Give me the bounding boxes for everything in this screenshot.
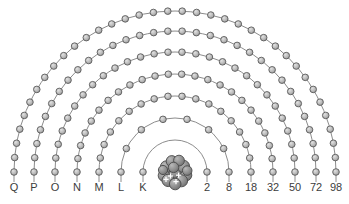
electron xyxy=(116,118,123,125)
electron xyxy=(330,140,337,147)
electron xyxy=(248,27,255,34)
electron xyxy=(110,42,117,49)
electron xyxy=(42,113,49,120)
electron xyxy=(138,126,145,133)
electron xyxy=(115,89,122,96)
electron xyxy=(107,129,114,136)
electron xyxy=(313,169,320,176)
electron xyxy=(56,88,63,95)
electron xyxy=(269,155,276,162)
electron xyxy=(306,126,313,133)
electron xyxy=(97,155,104,162)
electron xyxy=(205,126,212,133)
electron xyxy=(31,169,38,176)
electron xyxy=(255,118,262,125)
electron xyxy=(270,169,277,176)
electron xyxy=(136,12,143,19)
electron xyxy=(108,21,115,28)
electron xyxy=(310,140,317,147)
electron xyxy=(179,49,186,56)
electron xyxy=(288,141,295,148)
electron xyxy=(333,169,340,176)
electron xyxy=(206,54,213,61)
electron xyxy=(150,29,157,36)
electron xyxy=(178,71,185,78)
electron xyxy=(206,101,213,108)
electron xyxy=(220,145,227,152)
electron xyxy=(218,108,225,115)
nucleon xyxy=(169,178,181,190)
electron xyxy=(219,59,226,66)
electron xyxy=(31,154,38,161)
electron xyxy=(124,59,131,66)
electron xyxy=(284,128,291,135)
electron xyxy=(179,93,186,100)
electron xyxy=(295,100,302,107)
electron xyxy=(327,126,334,133)
electron xyxy=(262,130,269,137)
electron xyxy=(226,169,233,176)
electron xyxy=(41,74,48,81)
electron xyxy=(243,141,250,148)
electron xyxy=(77,142,84,149)
electron xyxy=(310,86,317,93)
electron xyxy=(279,77,286,84)
electron xyxy=(193,51,200,58)
electron xyxy=(243,72,250,79)
electron xyxy=(193,9,200,16)
electron xyxy=(279,115,286,122)
electron xyxy=(33,86,40,93)
electron xyxy=(11,169,18,176)
electron xyxy=(80,92,87,99)
electron xyxy=(105,97,112,104)
electron xyxy=(150,9,157,16)
electron xyxy=(332,154,339,161)
electron xyxy=(246,155,253,162)
electron xyxy=(164,8,171,15)
electron xyxy=(258,57,265,64)
electron xyxy=(217,82,224,89)
electron xyxy=(50,63,57,70)
electron xyxy=(96,169,103,176)
electron xyxy=(266,142,273,149)
electron xyxy=(291,155,298,162)
electron xyxy=(88,118,95,125)
electron xyxy=(228,118,235,125)
electron xyxy=(122,16,129,23)
electron xyxy=(140,169,147,176)
electron xyxy=(205,76,212,83)
shell-letter-label-M: M xyxy=(94,181,103,193)
electron xyxy=(59,128,66,135)
nucleon xyxy=(182,166,192,176)
electron xyxy=(165,49,172,56)
electron xyxy=(292,169,299,176)
electron xyxy=(151,96,158,103)
electron xyxy=(184,116,191,123)
electron xyxy=(208,12,215,19)
electron xyxy=(179,8,186,15)
electron xyxy=(71,43,78,50)
electron xyxy=(221,36,228,43)
electron xyxy=(248,107,255,114)
electron xyxy=(193,96,200,103)
electron xyxy=(71,103,78,110)
electron xyxy=(13,140,20,147)
electron xyxy=(136,32,143,39)
shell-letter-label-P: P xyxy=(30,181,37,193)
electron xyxy=(60,52,67,59)
electron xyxy=(228,89,235,96)
electron xyxy=(254,81,261,88)
shell-count-label-8: 8 xyxy=(226,181,232,193)
nucleon xyxy=(158,165,167,174)
electron xyxy=(139,76,146,83)
electron xyxy=(100,72,107,79)
electron xyxy=(239,97,246,104)
electron xyxy=(221,16,228,23)
electron xyxy=(75,155,82,162)
electron xyxy=(260,34,267,41)
electron xyxy=(235,21,242,28)
shell-count-label-18: 18 xyxy=(245,181,257,193)
diagram-canvas: K2L8M18N32O50P72Q98 xyxy=(0,0,349,204)
electron xyxy=(312,154,319,161)
electron xyxy=(293,63,300,70)
